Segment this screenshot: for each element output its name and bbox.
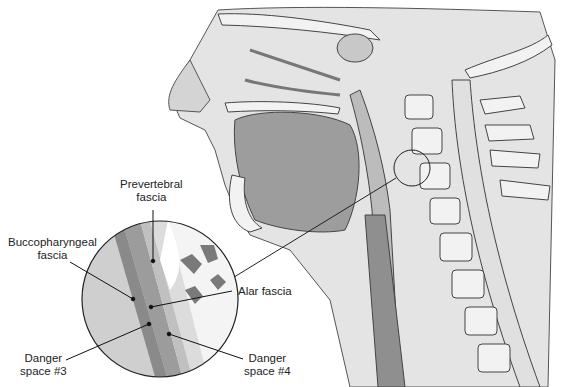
- label-line: fascia: [120, 191, 183, 204]
- anatomy-illustration: [0, 0, 568, 387]
- label-danger-space-4: Danger space #4: [244, 352, 291, 378]
- tongue: [234, 112, 359, 232]
- label-prevertebral-fascia: Prevertebral fascia: [120, 178, 183, 204]
- label-line: Danger: [20, 352, 67, 365]
- label-danger-space-3: Danger space #3: [20, 352, 67, 378]
- label-line: space #4: [244, 365, 291, 378]
- magnified-inset: [80, 220, 240, 387]
- label-line: space #3: [20, 365, 67, 378]
- label-line: Danger: [244, 352, 291, 365]
- label-line: Buccopharyngeal: [8, 236, 97, 249]
- label-line: fascia: [8, 249, 97, 262]
- label-line: Prevertebral: [120, 178, 183, 191]
- sphenoid-sinus: [337, 34, 373, 62]
- label-buccopharyngeal-fascia: Buccopharyngeal fascia: [8, 236, 97, 262]
- label-alar-fascia: Alar fascia: [238, 285, 292, 298]
